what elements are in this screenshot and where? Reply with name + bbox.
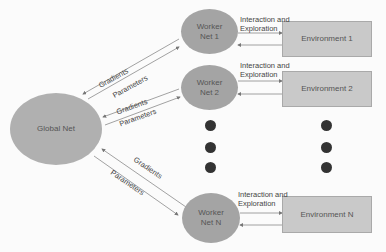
environment-2-box: Environment 2 xyxy=(282,71,372,107)
a3c-architecture-diagram: Global Net Worker Net 1 Worker Net 2 Wor… xyxy=(0,0,386,252)
interaction-label-n: Interaction and Exploration xyxy=(238,190,288,208)
ellipsis-dot-icon xyxy=(321,142,332,153)
ellipsis-dot-icon xyxy=(321,120,332,131)
environment-1-label: Environment 1 xyxy=(301,34,353,44)
worker-net-n-label-line2: Net N xyxy=(201,218,221,228)
environment-n-box: Environment N xyxy=(282,196,372,233)
ellipsis-dot-icon xyxy=(205,162,216,173)
global-net-node: Global Net xyxy=(10,93,102,165)
ellipsis-dot-icon xyxy=(205,120,216,131)
worker-net-2-node: Worker Net 2 xyxy=(181,65,238,110)
worker-net-n-label-line1: Worker xyxy=(198,208,224,218)
interaction-text: Interaction and xyxy=(240,61,290,70)
worker-net-1-node: Worker Net 1 xyxy=(181,9,238,54)
interaction-label-1: Interaction and Exploration xyxy=(240,15,290,33)
exploration-text: Exploration xyxy=(240,70,290,79)
worker-net-2-label-line1: Worker xyxy=(197,78,223,88)
exploration-text: Exploration xyxy=(238,199,288,208)
environment-2-label: Environment 2 xyxy=(301,84,353,94)
global-net-label: Global Net xyxy=(37,124,75,134)
interaction-label-2: Interaction and Exploration xyxy=(240,61,290,79)
worker-net-1-label-line1: Worker xyxy=(197,22,223,32)
environment-n-label: Environment N xyxy=(301,210,354,220)
worker-net-2-label-line2: Net 2 xyxy=(200,88,219,98)
interaction-text: Interaction and xyxy=(238,190,288,199)
exploration-text: Exploration xyxy=(240,24,290,33)
interaction-text: Interaction and xyxy=(240,15,290,24)
worker-net-1-label-line2: Net 1 xyxy=(200,32,219,42)
worker-net-n-node: Worker Net N xyxy=(182,193,240,243)
environment-1-box: Environment 1 xyxy=(282,21,372,57)
ellipsis-dot-icon xyxy=(321,162,332,173)
ellipsis-dot-icon xyxy=(205,142,216,153)
